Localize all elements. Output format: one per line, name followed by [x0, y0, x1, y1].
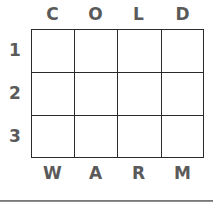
grid-cell-r3c4 [162, 116, 205, 159]
top-label-l: L [117, 6, 160, 23]
bottom-label-w: W [31, 165, 74, 182]
row-label-1: 1 [6, 29, 24, 72]
bottom-divider-rule [0, 200, 213, 202]
grid-cell-r1c1 [32, 30, 75, 73]
grid-cell-r3c1 [32, 116, 75, 159]
grid-cell-r2c3 [118, 73, 161, 116]
grid-cell-r2c2 [75, 73, 118, 116]
grid-cell-r3c2 [75, 116, 118, 159]
grid-cell-r3c3 [118, 116, 161, 159]
bottom-label-m: M [161, 165, 204, 182]
letter-grid [31, 29, 204, 158]
top-label-o: O [74, 6, 117, 23]
bottom-label-r: R [117, 165, 160, 182]
grid-cell-r1c4 [162, 30, 205, 73]
grid-cell-r1c3 [118, 30, 161, 73]
grid-cell-r1c2 [75, 30, 118, 73]
grid-cell-r2c1 [32, 73, 75, 116]
top-label-d: D [161, 6, 204, 23]
row-label-2: 2 [6, 72, 24, 115]
bottom-label-a: A [74, 165, 117, 182]
top-label-c: C [31, 6, 74, 23]
row-label-3: 3 [6, 115, 24, 158]
grid-cell-r2c4 [162, 73, 205, 116]
